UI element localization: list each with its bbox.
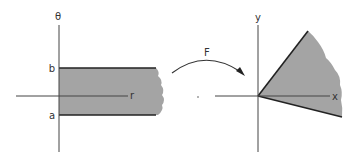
mapping-arc <box>172 60 241 73</box>
theta-axis-label: θ <box>55 11 61 22</box>
mapping-label: F <box>204 47 210 58</box>
y-axis-label: y <box>255 12 261 23</box>
center-dot <box>197 96 199 98</box>
left-panel: θ r b a <box>16 11 164 152</box>
mapping-arrow: F <box>172 47 245 98</box>
mapping-diagram: θ r b a F y x <box>0 0 361 162</box>
right-panel: y x <box>215 12 342 152</box>
x-axis-label: x <box>332 91 338 102</box>
arrowhead-icon <box>236 67 245 76</box>
strip-region <box>59 68 164 115</box>
lower-bound-label: a <box>49 110 55 121</box>
upper-bound-label: b <box>49 63 55 74</box>
wedge-region <box>258 31 342 117</box>
